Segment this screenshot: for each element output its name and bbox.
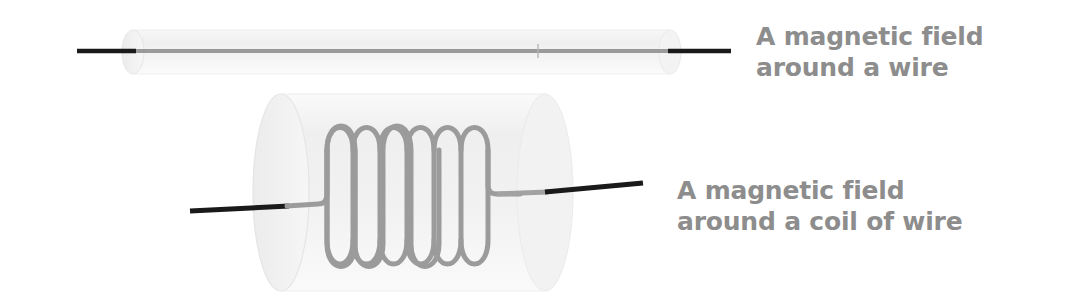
- caption-magnetic-field-around-coil: A magnetic field around a coil of wire: [677, 176, 963, 237]
- cylinder-cap-left: [253, 94, 309, 291]
- coil-lead-right-grey: [497, 192, 548, 194]
- figure-straight-wire: [77, 30, 731, 74]
- figure-coil-of-wire: [190, 94, 643, 291]
- illustration-canvas: A magnetic field around a wire A magneti…: [0, 0, 1073, 304]
- caption-magnetic-field-around-wire: A magnetic field around a wire: [756, 22, 983, 83]
